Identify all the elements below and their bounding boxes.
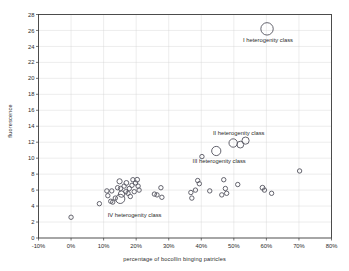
y-tick-label: 10 [28, 155, 34, 161]
data-point [242, 137, 249, 144]
data-point [190, 196, 194, 200]
data-point [97, 201, 101, 205]
x-tick-label: 50% [228, 243, 240, 249]
x-tick-label: 10% [98, 243, 110, 249]
data-point [224, 191, 228, 195]
y-axis-title: fluorescence [7, 81, 13, 161]
y-tick-label: 20 [28, 75, 34, 81]
data-point [208, 189, 212, 193]
y-tick-label: 22 [28, 59, 34, 65]
data-point [155, 193, 159, 197]
x-tick-label: 30% [163, 243, 175, 249]
data-point [269, 191, 273, 195]
annotation-label: I heterogenity class [243, 37, 293, 43]
y-tick-label: 6 [31, 187, 34, 193]
data-point [124, 181, 129, 186]
gridlines-horizontal [39, 30, 332, 222]
y-axis-tick-labels: 0246810121416182022242628 [28, 12, 35, 242]
y-tick-label: 0 [31, 235, 34, 241]
plot-canvas: -10%0%10%20%30%40%50%60%70%80% 024681012… [0, 0, 349, 271]
y-tick-label: 4 [31, 203, 35, 209]
annotation-label: II heterogenity class [213, 130, 265, 136]
data-point [229, 139, 237, 147]
y-tick-label: 16 [28, 107, 34, 113]
data-point [115, 186, 119, 190]
data-point [159, 186, 163, 190]
data-point [222, 178, 226, 182]
x-tick-label: 40% [195, 243, 207, 249]
x-tick-label: 20% [130, 243, 142, 249]
scatter-chart-figure: -10%0%10%20%30%40%50%60%70%80% 024681012… [0, 0, 349, 271]
data-point [212, 146, 221, 155]
data-point [220, 193, 224, 197]
x-tick-label: 0% [67, 243, 75, 249]
y-tick-label: 12 [28, 139, 34, 145]
x-tick-label: 70% [293, 243, 305, 249]
data-point [189, 190, 193, 194]
y-tick-label: 8 [31, 171, 34, 177]
data-point [297, 169, 301, 173]
x-tick-label: 60% [261, 243, 273, 249]
annotation-label: III heterogenity class [193, 158, 246, 164]
data-point [128, 194, 132, 198]
data-point [236, 182, 240, 186]
data-point [261, 23, 273, 35]
data-point [160, 195, 164, 199]
x-axis-tick-labels: -10%0%10%20%30%40%50%60%70%80% [32, 243, 338, 249]
data-point [105, 189, 109, 193]
y-tick-label: 28 [28, 12, 34, 18]
data-point [106, 193, 110, 197]
annotation-labels-group: I heterogenity classII heterogenity clas… [108, 37, 293, 219]
y-tick-label: 2 [31, 219, 34, 225]
y-tick-label: 26 [28, 28, 34, 34]
y-tick-label: 18 [28, 91, 34, 97]
y-tick-label: 24 [28, 44, 35, 50]
x-tick-label: -10% [32, 243, 46, 249]
data-point [117, 179, 122, 184]
data-point [110, 189, 114, 193]
annotation-label: IV heterogenity class [108, 212, 162, 218]
y-tick-label: 14 [28, 123, 35, 129]
x-tick-label: 80% [326, 243, 338, 249]
x-axis-title: percentage of bocollin binging patricles [0, 256, 349, 262]
